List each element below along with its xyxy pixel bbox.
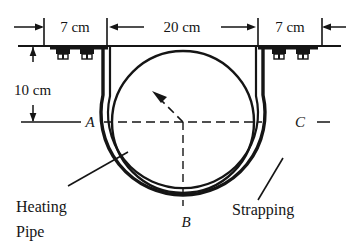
heating-pipe-diagram: 7 cm 20 cm 7 cm <box>0 0 348 250</box>
dimension-arrowhead-drop-bottom <box>30 113 37 122</box>
dimension-label-drop-height: 10 cm <box>14 82 51 98</box>
dimension-arrowhead-right-gap <box>322 24 331 31</box>
bolt-right-1 <box>272 49 286 59</box>
bolt-shaft <box>62 49 64 59</box>
dimension-arrowhead-drop-top <box>30 47 37 56</box>
fastener-group-left <box>56 49 94 59</box>
dimension-right-gap: 7 cm <box>275 19 346 35</box>
radius-arrowhead <box>152 91 167 103</box>
dimension-label-pipe-width: 20 cm <box>163 19 200 35</box>
radius-arrow <box>152 91 183 122</box>
bolt-right-2 <box>296 49 310 59</box>
dimension-label-right-gap: 7 cm <box>275 19 305 35</box>
dimension-arrowhead-width-left <box>109 24 118 31</box>
bolt-shaft <box>302 49 304 59</box>
strapping-leader-line <box>258 158 283 200</box>
dimension-pipe-width: 20 cm <box>109 19 256 35</box>
point-label-b: B <box>181 214 190 230</box>
dimension-label-left-gap: 7 cm <box>60 19 90 35</box>
heating-pipe-leader-line <box>68 152 128 186</box>
bolt-shaft <box>86 49 88 59</box>
annotation-heating-pipe-line1: Heating <box>16 198 67 216</box>
dimension-left-gap: 7 cm <box>14 19 90 35</box>
annotation-heating-pipe: Heating Pipe <box>16 198 67 241</box>
annotation-strapping: Strapping <box>232 201 294 219</box>
bolt-shaft <box>278 49 280 59</box>
top-dimension-chain: 7 cm 20 cm 7 cm <box>14 18 346 46</box>
annotation-heating-pipe-line2: Pipe <box>16 223 44 241</box>
fastener-group-right <box>272 49 310 59</box>
dimension-arrowhead-width-right <box>247 24 256 31</box>
bolt-left-2 <box>80 49 94 59</box>
bolt-left-1 <box>56 49 70 59</box>
point-label-a: A <box>84 114 95 130</box>
strapping-leader <box>258 158 283 200</box>
dimension-arrowhead-left-gap <box>35 24 44 31</box>
point-label-c: C <box>295 114 306 130</box>
heating-pipe-leader <box>68 152 128 186</box>
dimension-drop-height: 10 cm <box>14 47 51 122</box>
